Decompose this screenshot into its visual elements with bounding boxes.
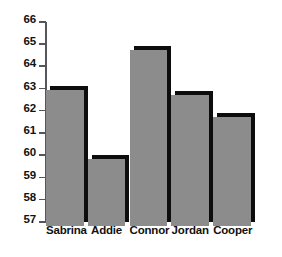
bar-chart: 57585960616263646566 SabrinaAddieConnorJ… — [0, 0, 282, 257]
bar-face — [171, 95, 209, 226]
y-tick-mark — [39, 132, 46, 134]
y-tick-label: 65 — [6, 36, 36, 48]
y-tick-mark — [39, 199, 46, 201]
y-tick-label: 57 — [6, 214, 36, 226]
bar — [46, 86, 84, 222]
y-tick-label: 61 — [6, 125, 36, 137]
bar — [171, 91, 209, 222]
plot-area — [46, 22, 255, 222]
x-category-label: Connor — [130, 225, 168, 237]
y-tick-mark — [39, 43, 46, 45]
x-category-label: Sabrina — [46, 225, 84, 237]
y-tick-mark — [39, 177, 46, 179]
y-tick-label: 60 — [6, 147, 36, 159]
y-tick-label: 58 — [6, 192, 36, 204]
y-tick-label: 59 — [6, 170, 36, 182]
y-tick-label: 63 — [6, 81, 36, 93]
y-tick-mark — [39, 154, 46, 156]
bar — [213, 113, 251, 222]
y-tick-mark — [39, 110, 46, 112]
y-tick-mark — [39, 21, 46, 23]
bar — [130, 46, 168, 222]
bar-face — [46, 90, 84, 226]
y-tick-mark — [39, 221, 46, 223]
y-tick-mark — [39, 65, 46, 67]
y-tick-mark — [39, 88, 46, 90]
x-category-label: Jordan — [171, 225, 209, 237]
bar — [88, 155, 126, 222]
bar-face — [130, 50, 168, 226]
x-category-label: Addie — [88, 225, 126, 237]
x-category-label: Cooper — [213, 225, 251, 237]
bar-face — [88, 159, 126, 226]
bar-face — [213, 117, 251, 226]
y-tick-label: 62 — [6, 103, 36, 115]
y-tick-label: 66 — [6, 14, 36, 26]
y-tick-label: 64 — [6, 58, 36, 70]
